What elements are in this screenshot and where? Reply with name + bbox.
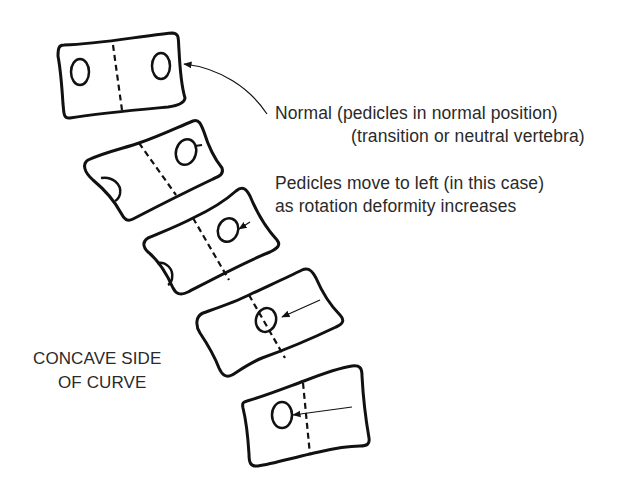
midline-dashed bbox=[193, 218, 229, 280]
vertebral-body-outline bbox=[85, 121, 223, 221]
label-concave-line2: OF CURVE bbox=[58, 374, 146, 391]
pedicle bbox=[214, 215, 241, 244]
pedicle-left bbox=[71, 59, 89, 85]
midline-dashed bbox=[113, 45, 122, 110]
pedicle-right bbox=[173, 137, 199, 167]
pedicle-connector bbox=[195, 145, 202, 146]
scoliosis-rotation-diagram bbox=[0, 0, 641, 487]
label-rotation-line2: as rotation deformity increases bbox=[275, 198, 516, 216]
label-normal-line1: Normal (pedicles in normal position) bbox=[275, 105, 558, 123]
vertebra-2 bbox=[85, 121, 223, 221]
vertebral-body-outline bbox=[197, 269, 343, 376]
midline-dashed bbox=[303, 383, 310, 455]
vertebra-4 bbox=[197, 269, 343, 376]
vertebra-1 bbox=[58, 33, 185, 118]
pedicle-right bbox=[152, 53, 170, 79]
pedicle bbox=[272, 402, 292, 428]
arrow-pedicle-4 bbox=[282, 300, 320, 317]
vertebra-5 bbox=[243, 366, 370, 466]
label-rotation-line1: Pedicles move to left (in this case) bbox=[275, 175, 544, 193]
midline-dashed bbox=[139, 143, 176, 195]
arrow-normal bbox=[184, 64, 267, 114]
arrow-pedicle-5 bbox=[293, 407, 352, 415]
midline-dashed bbox=[249, 295, 285, 358]
label-normal-line2: (transition or neutral vertebra) bbox=[351, 128, 585, 146]
label-concave-line1: CONCAVE SIDE bbox=[33, 350, 161, 367]
arrow-pedicle-3 bbox=[239, 222, 250, 229]
pedicle bbox=[253, 306, 279, 334]
